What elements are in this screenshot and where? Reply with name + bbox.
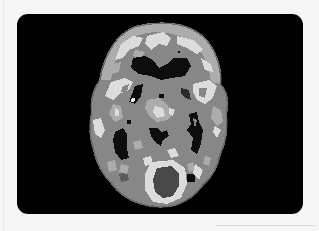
- page-edge-line: [215, 225, 315, 226]
- brain-scan-image: Axial brain scan slice: [17, 14, 303, 214]
- brain-scan-graphic: [17, 14, 303, 214]
- page-edge-line: [3, 0, 4, 231]
